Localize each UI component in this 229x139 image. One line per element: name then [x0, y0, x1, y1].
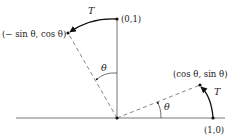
transform-arc-top [70, 19, 116, 32]
label-e1: (1,0) [204, 125, 224, 135]
rotation-diagram: (0,1) (1,0) (cos θ, sin θ) (− sin θ, cos… [0, 0, 229, 139]
label-e2: (0,1) [121, 14, 141, 24]
origin-point [115, 116, 118, 119]
transform-arc-right [201, 87, 213, 117]
rotated-e1-vector [117, 85, 200, 118]
rotated-e2-vector [68, 33, 117, 118]
point-rot-e1 [198, 83, 201, 86]
label-rot-e2: (− sin θ, cos θ) [2, 29, 66, 39]
label-transform-right: T [214, 86, 221, 97]
label-angle-bottom: θ [164, 101, 170, 112]
label-transform-top: T [88, 5, 95, 16]
label-rot-e1: (cos θ, sin θ) [173, 69, 227, 79]
angle-arc-bottom [157, 102, 161, 118]
angle-arc-top [96, 73, 117, 80]
point-rot-e2 [66, 31, 69, 34]
label-angle-top: θ [101, 62, 107, 73]
